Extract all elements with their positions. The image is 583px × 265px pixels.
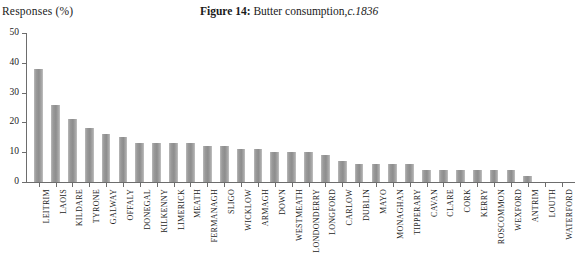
y-axis-tick-mark (22, 152, 26, 153)
y-axis-tick-label: 10 (10, 145, 20, 158)
x-axis-tick-label: WEXFORD (514, 189, 523, 231)
figure-caption-text: Butter consumption, (253, 5, 347, 17)
x-axis-tick-label: MAYO (379, 189, 388, 214)
bar-slot (203, 33, 212, 182)
bar-slot (51, 33, 60, 182)
bar-slot (338, 33, 347, 182)
y-axis-tick-label: 0 (14, 175, 19, 188)
x-axis-tick-mark (376, 183, 377, 187)
bar-slot (321, 33, 330, 182)
bar (287, 152, 296, 182)
bar (119, 137, 128, 182)
y-axis-tick-mark (22, 122, 26, 123)
bar-slot (355, 33, 364, 182)
y-axis-tick-mark (22, 33, 26, 34)
y-axis-title: Responses (%) (2, 5, 73, 17)
x-axis-tick-label: KILKENNY (160, 189, 169, 233)
bar (523, 176, 532, 182)
bar-slot (540, 33, 549, 182)
x-axis-tick-label: LAOIS (59, 189, 68, 214)
bar-slot (254, 33, 263, 182)
x-axis-tick-mark (190, 183, 191, 187)
x-axis-tick-mark (359, 183, 360, 187)
bar (85, 128, 94, 182)
x-axis-tick-label: WATERFORD (565, 189, 574, 240)
y-axis-tick: 40 (0, 63, 26, 64)
bar-slot (287, 33, 296, 182)
x-axis-tick-label: WESTMEATH (295, 189, 304, 241)
bar-slot (169, 33, 178, 182)
figure-container: Responses (%) Figure 14: Butter consumpt… (0, 0, 583, 265)
bar-slot (152, 33, 161, 182)
x-axis-tick-mark (275, 183, 276, 187)
x-axis-tick-label: DOWN (278, 189, 287, 215)
x-axis-tick-label: TIPPERARY (413, 189, 422, 235)
bar (34, 69, 43, 182)
bar (355, 164, 364, 182)
x-axis-tick-mark (477, 183, 478, 187)
x-axis-tick-label: LONDONDERRY (312, 189, 321, 253)
x-axis-tick-label: MEATH (193, 189, 202, 218)
x-axis-tick-label: DUBLIN (362, 189, 371, 221)
bar (51, 105, 60, 182)
x-axis-tick-mark (241, 183, 242, 187)
y-axis-tick-label: 50 (10, 26, 20, 39)
x-axis-tick-mark (325, 183, 326, 187)
y-axis-tick-label: 20 (10, 115, 20, 128)
x-axis-tick-mark (56, 183, 57, 187)
x-axis-tick-label: LOUTH (548, 189, 557, 218)
bar-slot (422, 33, 431, 182)
x-axis-tick-mark (224, 183, 225, 187)
x-axis-tick-label: SLIGO (227, 189, 236, 214)
bar (338, 161, 347, 182)
bar-slot (473, 33, 482, 182)
x-axis-tick-label: MONAGHAN (396, 189, 405, 239)
x-axis-tick-mark (528, 183, 529, 187)
x-axis-tick-label: KILDARE (75, 189, 84, 226)
x-axis-tick-mark (562, 183, 563, 187)
x-axis-tick-label: LEITRIM (42, 189, 51, 224)
x-axis-tick-label: ARMAGH (261, 189, 270, 226)
x-axis-tick-label: ANTRIM (531, 189, 540, 222)
x-axis-tick-label: FERMANAGH (210, 189, 219, 242)
bar (203, 146, 212, 182)
x-axis-tick-label: LIMERICK (177, 189, 186, 230)
x-axis-tick-mark (494, 183, 495, 187)
bar (439, 170, 448, 182)
bar (68, 119, 77, 182)
y-axis-tick-mark (22, 93, 26, 94)
bar-slot (507, 33, 516, 182)
bar-slot (557, 33, 566, 182)
y-axis-tick: 0 (0, 182, 26, 183)
x-axis-tick-mark (545, 183, 546, 187)
bar (490, 170, 499, 182)
bar-slot (456, 33, 465, 182)
x-axis-tick-label: CLARE (446, 189, 455, 217)
x-axis-tick-label: DONEGAL (143, 189, 152, 230)
x-axis-tick-mark (410, 183, 411, 187)
bar (304, 152, 313, 182)
bar-slot (68, 33, 77, 182)
x-axis-tick-mark (460, 183, 461, 187)
y-axis-tick: 30 (0, 93, 26, 94)
x-axis-tick-mark (123, 183, 124, 187)
x-axis-tick-label: ROSCOMMON (497, 189, 506, 244)
x-axis-tick-label: CARLOW (345, 189, 354, 225)
bar (372, 164, 381, 182)
x-axis-tick-label: CAVAN (430, 189, 439, 217)
y-axis-tick-label: 40 (10, 56, 20, 69)
x-axis-tick-label: WICKLOW (244, 189, 253, 231)
x-axis-tick-mark (511, 183, 512, 187)
x-axis-tick-mark (443, 183, 444, 187)
bar (422, 170, 431, 182)
bar-slot (523, 33, 532, 182)
bar-slot (119, 33, 128, 182)
x-axis-tick-mark (207, 183, 208, 187)
y-axis-tick-mark (22, 182, 26, 183)
y-axis-tick: 10 (0, 152, 26, 153)
x-axis-tick-label: GALWAY (109, 189, 118, 224)
x-axis-tick-mark (258, 183, 259, 187)
x-axis-tick-mark (157, 183, 158, 187)
y-axis-tick: 50 (0, 33, 26, 34)
x-axis-tick-mark (292, 183, 293, 187)
